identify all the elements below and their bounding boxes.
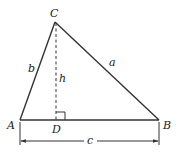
side-label-b: b [28, 62, 35, 75]
side-b [20, 22, 55, 120]
right-angle-marker [56, 112, 65, 120]
foot-label-d: D [51, 123, 61, 136]
dimension-label-c: c [87, 134, 93, 147]
vertex-label-b: B [162, 119, 171, 132]
side-label-a: a [109, 56, 116, 69]
side-a [55, 22, 159, 120]
altitude-label-h: h [59, 72, 66, 85]
vertex-label-c: C [50, 7, 59, 20]
vertex-label-a: A [6, 119, 15, 132]
triangle-diagram: C A B D b a h c [0, 0, 181, 152]
